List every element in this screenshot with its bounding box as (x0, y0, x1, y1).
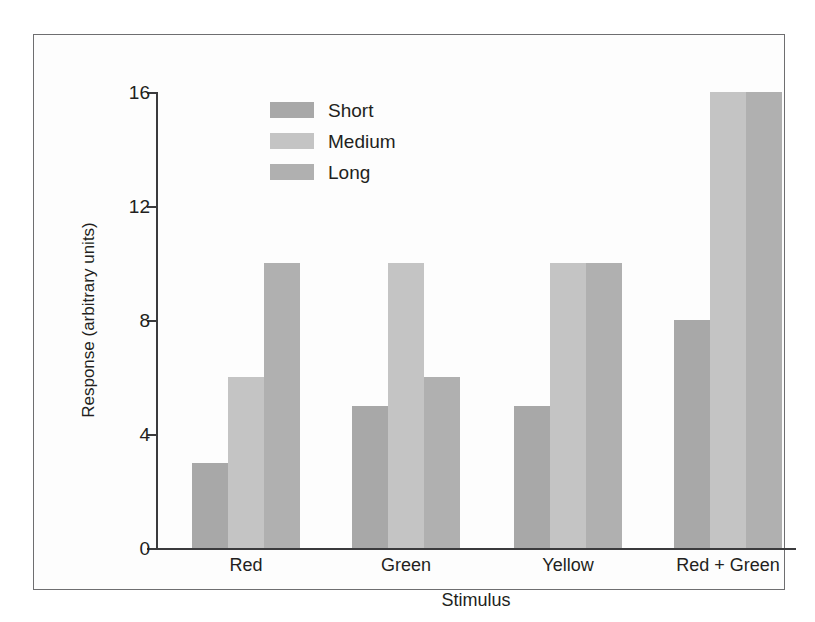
bar (388, 263, 424, 548)
bar (424, 377, 460, 548)
bar (192, 463, 228, 549)
x-axis-category-label: Yellow (488, 555, 648, 576)
x-axis-line (156, 548, 796, 550)
y-axis-tick-label: 0 (139, 539, 150, 558)
figure-frame: Response (arbitrary units) 0481216 RedGr… (33, 34, 785, 590)
x-axis-category-label: Red (166, 555, 326, 576)
y-axis-tick-label: 16 (129, 83, 150, 102)
bar (710, 92, 746, 548)
legend-swatch (270, 133, 314, 149)
bar (514, 406, 550, 549)
bar (674, 320, 710, 548)
plot-area: 0481216 RedGreenYellowRed + Green (156, 92, 796, 548)
legend-item: Short (270, 97, 396, 123)
figure-canvas: Response (arbitrary units) 0481216 RedGr… (0, 0, 815, 622)
x-axis-category-label: Green (326, 555, 486, 576)
y-axis-tick-label: 4 (139, 425, 150, 444)
bar (586, 263, 622, 548)
y-axis-line (156, 92, 158, 548)
y-axis-tick-label: 12 (129, 197, 150, 216)
legend-label: Long (328, 163, 370, 182)
x-axis-title: Stimulus (156, 590, 796, 611)
bar (746, 92, 782, 548)
y-axis-tick-label: 8 (139, 311, 150, 330)
legend-label: Short (328, 101, 373, 120)
bar (550, 263, 586, 548)
legend-label: Medium (328, 132, 396, 151)
legend-item: Medium (270, 128, 396, 154)
legend-item: Long (270, 159, 396, 185)
legend-swatch (270, 164, 314, 180)
x-axis-category-label: Red + Green (648, 555, 808, 576)
chart-legend: ShortMediumLong (270, 97, 396, 190)
bar (264, 263, 300, 548)
bar (352, 406, 388, 549)
legend-swatch (270, 102, 314, 118)
bar (228, 377, 264, 548)
y-axis-title: Response (arbitrary units) (78, 92, 100, 548)
